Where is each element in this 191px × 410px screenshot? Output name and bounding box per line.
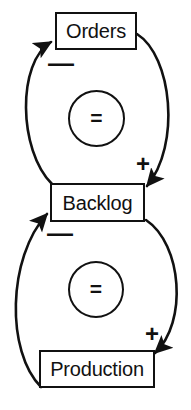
balancing-loop-marker-top: =: [68, 90, 125, 147]
node-backlog[interactable]: Backlog: [50, 183, 145, 222]
node-orders-label: Orders: [66, 21, 126, 41]
loop-marker-label: =: [90, 107, 102, 128]
polarity-sign-orders-to-backlog: +: [136, 152, 150, 176]
polarity-sign-backlog-to-orders: —: [48, 50, 74, 76]
loop-marker-label: =: [90, 278, 102, 299]
node-production-label: Production: [50, 359, 144, 379]
node-backlog-label: Backlog: [63, 193, 133, 213]
polarity-sign-backlog-to-production: +: [145, 322, 159, 346]
balancing-loop-marker-bottom: =: [68, 261, 124, 318]
polarity-sign-production-to-backlog: —: [47, 220, 73, 246]
node-orders[interactable]: Orders: [55, 12, 137, 50]
node-production[interactable]: Production: [39, 350, 155, 388]
causal-loop-diagram: = = Orders Backlog Production — + — +: [0, 0, 191, 410]
